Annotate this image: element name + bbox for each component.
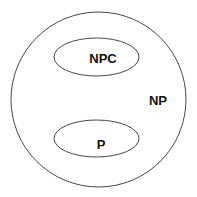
np-label: NP	[149, 93, 167, 108]
complexity-classes-diagram: NPC NP P	[0, 0, 197, 197]
npc-label: NPC	[89, 51, 117, 66]
p-label: P	[97, 137, 106, 152]
